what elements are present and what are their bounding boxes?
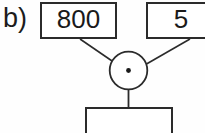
connector-left-operand — [80, 39, 115, 63]
operand-value-right: 5 — [174, 4, 188, 34]
result-box[interactable] — [86, 108, 172, 133]
connector-right-operand — [143, 39, 190, 66]
figure-canvas: b) 800 5 — [0, 0, 205, 133]
operand-value-left: 800 — [57, 4, 100, 34]
operation-diagram: 800 5 — [0, 0, 205, 133]
multiplication-dot-icon — [126, 68, 131, 73]
